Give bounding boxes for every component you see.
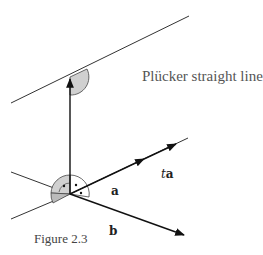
vector-a: [70, 159, 144, 194]
figure-canvas: Plücker straight line ta a b Figure 2.3: [0, 0, 263, 255]
plucker-line-label: Plücker straight line: [142, 68, 263, 84]
label-a: a: [111, 184, 119, 198]
angle-dot-3: [80, 192, 82, 194]
vector-b: [70, 194, 184, 235]
label-ta: ta: [161, 167, 174, 181]
label-b: b: [109, 224, 117, 238]
right-angle-marker-origin-left: [51, 175, 70, 194]
angle-dot-2: [75, 184, 77, 186]
plucker-line: [11, 16, 189, 103]
angle-dot-1: [63, 185, 65, 187]
right-angle-marker-origin-lower: [51, 193, 70, 203]
figure-caption: Figure 2.3: [34, 231, 87, 246]
vector-ta: [144, 144, 176, 159]
label-ta-vector: a: [166, 167, 174, 181]
